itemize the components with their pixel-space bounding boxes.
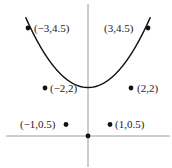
label-m2: (−2,2) xyxy=(50,82,78,95)
label-1: (1,0.5) xyxy=(115,118,145,131)
parabola-chart: (−3,4.5) (−2,2) (−1,0.5) (1,0.5) (2,2) (… xyxy=(0,0,172,168)
point-m1 xyxy=(64,122,69,127)
point-2 xyxy=(129,86,134,91)
label-3: (3,4.5) xyxy=(104,22,134,35)
point-m3 xyxy=(26,26,31,31)
point-3 xyxy=(146,26,151,31)
label-m3: (−3,4.5) xyxy=(34,22,70,35)
label-2: (2,2) xyxy=(137,82,158,95)
point-origin xyxy=(86,134,91,139)
point-m2 xyxy=(43,86,48,91)
point-1 xyxy=(108,122,113,127)
label-m1: (−1,0.5) xyxy=(20,118,56,131)
